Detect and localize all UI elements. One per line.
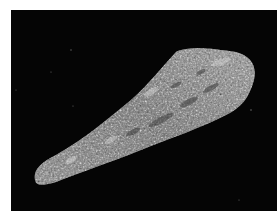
leaf-specimen (11, 10, 277, 211)
leaf-body (35, 48, 255, 185)
image-frame (11, 10, 277, 211)
